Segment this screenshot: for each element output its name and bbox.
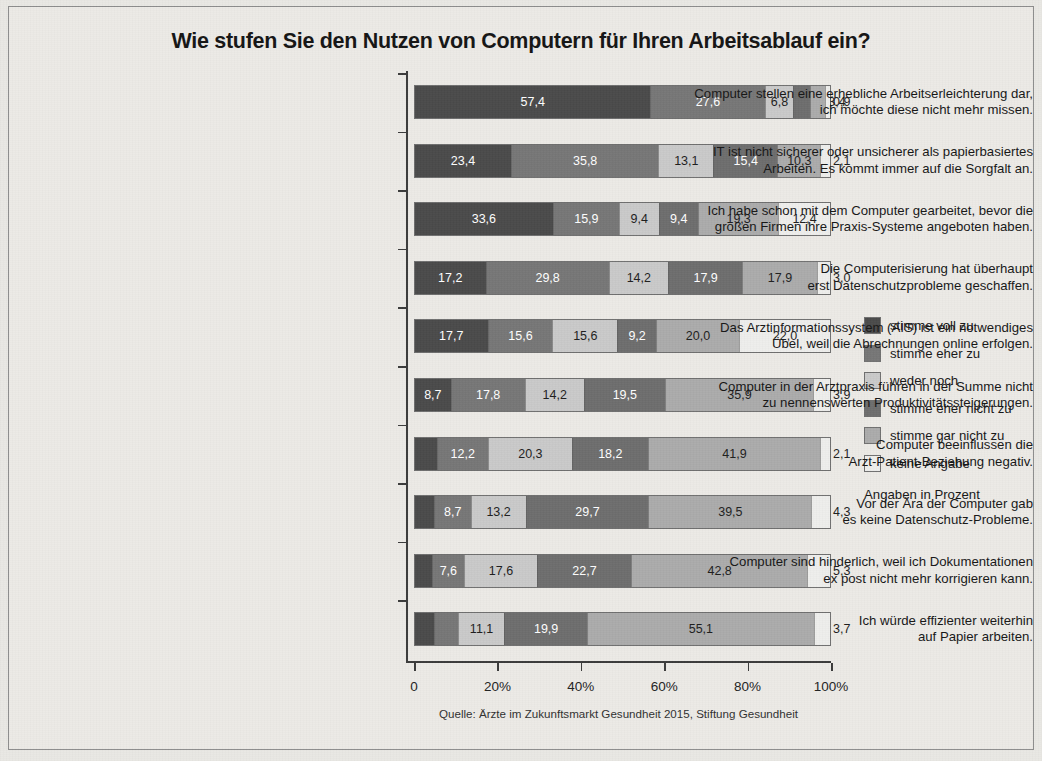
category-label-line: ex post nicht mehr korrigieren kann. xyxy=(661,571,1033,588)
category-label-line: Arbeiten. Es kommt immer auf die Sorgfal… xyxy=(661,161,1033,178)
category-label-line: Computer sind hinderlich, weil ich Dokum… xyxy=(661,554,1033,571)
y-axis-tick xyxy=(398,132,406,134)
category-label-line: IT ist nicht sicherer oder unsicherer al… xyxy=(661,144,1033,161)
category-label: Ich würde effizienter weiterhinauf Papie… xyxy=(661,613,1033,646)
bar-segment: 8,7 xyxy=(434,496,471,528)
x-axis-line xyxy=(406,661,831,663)
bar-segment: 8,7 xyxy=(415,379,451,411)
bar-segment: 35,8 xyxy=(511,145,659,177)
segment-value-label: 11,1 xyxy=(470,622,493,636)
y-axis-tick xyxy=(398,425,406,427)
x-axis-tick xyxy=(664,663,666,671)
category-label: Die Computerisierung hat überhaupterst D… xyxy=(661,261,1033,294)
bar-segment: 19,5 xyxy=(584,379,665,411)
bar-segment: 18,2 xyxy=(572,438,648,470)
y-axis-tick xyxy=(398,483,406,485)
x-axis-tick xyxy=(497,663,499,671)
y-axis-tick xyxy=(398,600,406,602)
category-label-line: Computer stellen eine erhebliche Arbeits… xyxy=(661,86,1033,103)
category-label-line: Das Arztinformationssystem (AIS) ist ein… xyxy=(661,320,1033,337)
y-axis-line xyxy=(406,71,408,663)
segment-value-label: 15,6 xyxy=(508,329,532,343)
category-label: Das Arztinformationssystem (AIS) ist ein… xyxy=(661,320,1033,353)
bar-segment: 19,9 xyxy=(504,613,587,645)
y-axis-tick xyxy=(398,249,406,251)
category-label: IT ist nicht sicherer oder unsicherer al… xyxy=(661,144,1033,177)
x-axis-tick xyxy=(748,663,750,671)
category-label: Computer sind hinderlich, weil ich Dokum… xyxy=(661,554,1033,587)
bar-segment: 33,6 xyxy=(415,203,553,235)
category-label: Computer stellen eine erhebliche Arbeits… xyxy=(661,86,1033,119)
segment-value-label: 17,6 xyxy=(489,564,513,578)
segment-value-label: 14,2 xyxy=(627,271,651,285)
category-label-line: Computer beeinflussen die xyxy=(661,437,1033,454)
y-axis-tick xyxy=(398,307,406,309)
x-axis-tick xyxy=(414,663,416,671)
segment-value-label: 22,7 xyxy=(572,564,596,578)
x-axis-tick-label: 60% xyxy=(651,679,678,694)
bar-segment: 15,6 xyxy=(488,320,553,352)
bar-segment: 29,7 xyxy=(526,496,649,528)
bar-segment: 15,6 xyxy=(552,320,617,352)
bar-segment: 23,4 xyxy=(415,145,511,177)
segment-value-label: 29,8 xyxy=(535,271,559,285)
bar-segment: 57,4 xyxy=(415,86,650,118)
bar-segment: 17,2 xyxy=(415,262,486,294)
category-label-line: auf Papier arbeiten. xyxy=(661,629,1033,646)
category-label-line: es keine Datenschutz-Probleme. xyxy=(661,512,1033,529)
bar-segment: 14,2 xyxy=(525,379,584,411)
x-axis-tick-label: 0 xyxy=(410,679,418,694)
y-axis-tick xyxy=(398,73,406,75)
chart-figure: Wie stufen Sie den Nutzen von Computern … xyxy=(8,6,1034,750)
bar-segment: 4,6 xyxy=(415,496,434,528)
bar-segment: 15,9 xyxy=(553,203,619,235)
bar-segment: 4,1 xyxy=(415,555,432,587)
segment-value-label: 33,6 xyxy=(472,212,496,226)
segment-value-label: 7,6 xyxy=(440,564,457,578)
bar-segment: 4,6 xyxy=(415,613,434,645)
category-label-line: zu nennenswerten Produktivitätssteigerun… xyxy=(661,395,1033,412)
segment-value-label: 18,2 xyxy=(598,447,622,461)
bar-segment: 5,6 xyxy=(434,613,458,645)
y-axis-tick xyxy=(398,366,406,368)
category-label: Ich habe schon mit dem Computer gearbeit… xyxy=(661,203,1033,236)
y-axis-tick xyxy=(398,542,406,544)
segment-value-label: 23,4 xyxy=(451,154,475,168)
category-label-line: Arzt-Patient-Beziehung negativ. xyxy=(661,454,1033,471)
segment-value-label: 35,8 xyxy=(573,154,597,168)
segment-value-label: 8,7 xyxy=(424,388,441,402)
category-label-line: ich möchte diese nicht mehr missen. xyxy=(661,102,1033,119)
segment-value-label: 12,2 xyxy=(451,447,475,461)
bar-segment: 9,4 xyxy=(619,203,659,235)
category-label-line: erst Datenschutzprobleme geschaffen. xyxy=(661,278,1033,295)
x-axis-tick-label: 80% xyxy=(734,679,761,694)
bar-segment: 7,6 xyxy=(432,555,464,587)
bar-segment: 5,3 xyxy=(415,438,437,470)
bar-segment: 9,2 xyxy=(617,320,656,352)
chart-title: Wie stufen Sie den Nutzen von Computern … xyxy=(9,29,1033,54)
bar-segment: 14,2 xyxy=(609,262,668,294)
category-label: Vor der Ära der Computer gabes keine Dat… xyxy=(661,496,1033,529)
segment-value-label: 57,4 xyxy=(521,95,545,109)
category-label-line: Vor der Ära der Computer gab xyxy=(661,496,1033,513)
category-label-line: Die Computerisierung hat überhaupt xyxy=(661,261,1033,278)
bar-segment: 17,7 xyxy=(415,320,488,352)
segment-value-label: 17,8 xyxy=(476,388,500,402)
segment-value-label: 20,3 xyxy=(518,447,542,461)
segment-value-label: 17,7 xyxy=(439,329,463,343)
segment-value-label: 14,2 xyxy=(543,388,567,402)
bar-segment: 12,2 xyxy=(437,438,488,470)
segment-value-label: 9,4 xyxy=(631,212,648,226)
x-axis-tick-label: 100% xyxy=(814,679,849,694)
segment-value-label: 19,5 xyxy=(613,388,637,402)
category-label-line: Übel, weil die Abrechnungen online erfol… xyxy=(661,336,1033,353)
category-label: Computer in der Arztpraxis führen in der… xyxy=(661,379,1033,412)
category-label-line: Computer in der Arztpraxis führen in der… xyxy=(661,379,1033,396)
category-label: Computer beeinflussen dieArzt-Patient-Be… xyxy=(661,437,1033,470)
segment-value-label: 8,7 xyxy=(444,505,461,519)
bar-segment: 20,3 xyxy=(488,438,572,470)
bar-segment: 13,2 xyxy=(471,496,526,528)
source-note: Quelle: Ärzte im Zukunftsmarkt Gesundhei… xyxy=(406,707,831,720)
y-axis-tick xyxy=(398,190,406,192)
segment-value-label: 29,7 xyxy=(575,505,599,519)
